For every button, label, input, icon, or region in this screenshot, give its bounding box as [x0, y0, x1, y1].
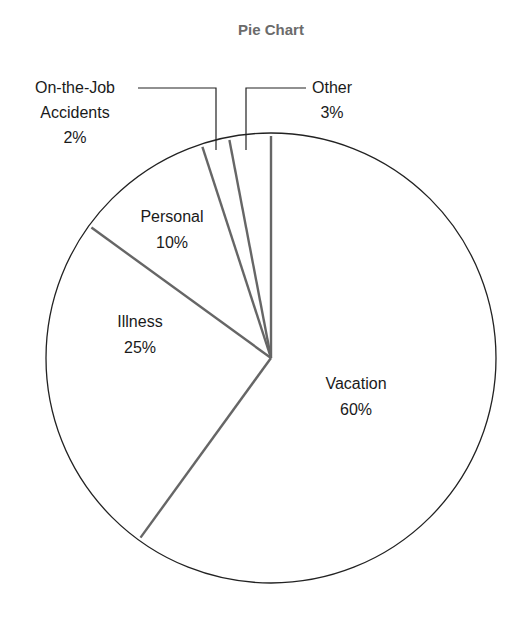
label-other: Other: [312, 79, 353, 96]
pie-plot-area: [46, 133, 496, 583]
value-illness: 25%: [124, 339, 156, 356]
label-on-the-job-accidents-line2: Accidents: [40, 104, 109, 121]
value-vacation: 60%: [340, 401, 372, 418]
chart-title: Pie Chart: [238, 21, 304, 38]
value-on-the-job-accidents: 2%: [63, 129, 86, 146]
label-vacation: Vacation: [325, 375, 386, 392]
label-illness: Illness: [117, 313, 162, 330]
leader-line-on-the-job-accidents: [138, 88, 216, 150]
label-on-the-job-accidents: On-the-Job: [35, 79, 115, 96]
value-personal: 10%: [156, 234, 188, 251]
label-personal: Personal: [140, 208, 203, 225]
pie-chart: Pie Chart Vacation60%Illness25%Personal1…: [0, 0, 508, 619]
value-other: 3%: [320, 104, 343, 121]
